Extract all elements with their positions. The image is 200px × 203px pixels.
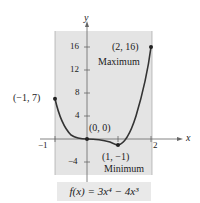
y-tick-16: 16 xyxy=(70,41,79,51)
y-axis-label: y xyxy=(84,12,88,23)
point-maximum xyxy=(149,45,153,49)
x-tick-2: 2 xyxy=(153,140,158,150)
y-tick-8: 8 xyxy=(75,87,80,97)
y-tick-neg4: −4 xyxy=(68,156,78,166)
point-origin xyxy=(85,137,89,141)
label-point-left: (−1, 7) xyxy=(13,92,40,103)
label-point-origin: (0, 0) xyxy=(89,122,111,133)
label-maximum: Maximum xyxy=(98,56,140,67)
point-left xyxy=(53,97,57,101)
y-tick-4: 4 xyxy=(75,110,80,120)
point-minimum xyxy=(116,143,120,147)
label-point-maximum: (2, 16) xyxy=(112,41,139,52)
y-tick-12: 12 xyxy=(70,64,79,74)
x-tick-neg1: −1 xyxy=(38,140,48,150)
label-minimum: Minimum xyxy=(104,163,144,174)
label-point-minimum: (1, −1) xyxy=(102,151,129,162)
x-axis-label: x xyxy=(186,132,190,143)
function-formula: f(x) = 3x⁴ − 4x³ xyxy=(57,182,151,201)
